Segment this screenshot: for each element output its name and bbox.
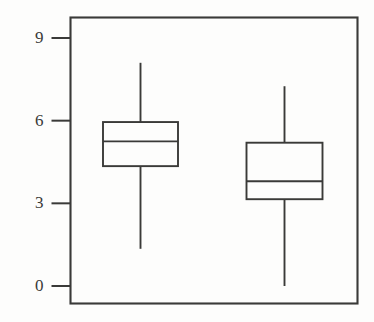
y-tick-label: 0	[18, 277, 44, 294]
plot-frame	[71, 18, 358, 304]
box-iqr	[247, 143, 323, 199]
box-plot-item	[103, 63, 178, 249]
box-plot-series	[103, 63, 323, 286]
y-tick-label: 9	[18, 29, 44, 46]
y-tick-label: 3	[18, 194, 44, 211]
y-axis-ticks	[52, 38, 71, 286]
plot-border	[71, 18, 358, 304]
boxplot-figure: 0369	[0, 0, 374, 322]
box-plot-item	[247, 86, 323, 286]
boxplot-canvas	[0, 0, 374, 322]
y-tick-label: 6	[18, 112, 44, 129]
box-iqr	[103, 122, 178, 166]
